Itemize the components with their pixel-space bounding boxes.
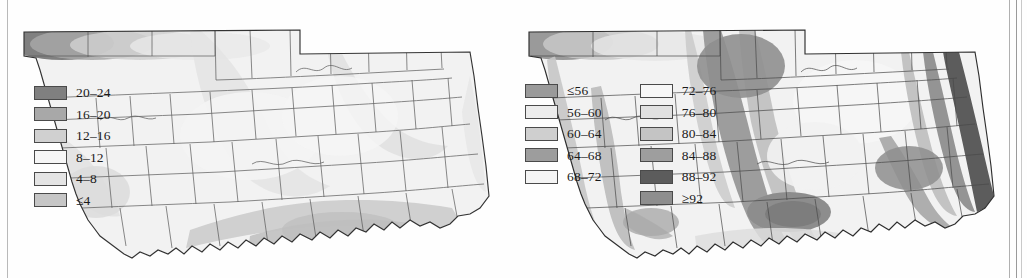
legend-label: ≥92 [682, 192, 704, 206]
legend-item: 76–80 [640, 102, 717, 124]
legend-swatch [34, 129, 67, 143]
legend-label: ≤4 [76, 194, 91, 208]
legend-swatch [34, 150, 67, 164]
legend-item: ≤56 [525, 80, 602, 102]
legend-label: 20–24 [76, 86, 111, 100]
legend-swatch [525, 170, 558, 184]
panel-left: 20–24 16–20 12–16 8–12 4–8 [0, 0, 510, 278]
legend-swatch [640, 170, 673, 184]
panel-right: ≤56 56–60 60–64 64–68 68–72 [505, 0, 1027, 278]
legend-swatch [640, 148, 673, 162]
legend-swatch [640, 127, 673, 141]
legend-left-column-1: 20–24 16–20 12–16 8–12 4–8 [34, 82, 111, 211]
legend-label: 88–92 [682, 170, 717, 184]
legend-item: 64–68 [525, 145, 602, 167]
legend-label: 68–72 [567, 170, 602, 184]
legend-item: ≤4 [34, 190, 111, 212]
legend-swatch [640, 191, 673, 205]
legend-label: 8–12 [76, 151, 104, 165]
figure-page: 20–24 16–20 12–16 8–12 4–8 [0, 0, 1027, 278]
legend-item: 20–24 [34, 82, 111, 104]
legend-label: 72–76 [682, 84, 717, 98]
legend-label: 56–60 [567, 106, 602, 120]
legend-item: 60–64 [525, 123, 602, 145]
legend-label: 12–16 [76, 129, 111, 143]
legend-swatch [525, 148, 558, 162]
legend-swatch [640, 105, 673, 119]
legend-label: 76–80 [682, 106, 717, 120]
legend-item: 12–16 [34, 125, 111, 147]
legend-item: 8–12 [34, 147, 111, 169]
legend-right-column-1: ≤56 56–60 60–64 64–68 68–72 [525, 80, 602, 209]
legend-label: ≤56 [567, 84, 589, 98]
legend-item: 56–60 [525, 102, 602, 124]
legend-swatch [34, 107, 67, 121]
legend-item: 80–84 [640, 123, 717, 145]
legend-item: 84–88 [640, 145, 717, 167]
legend-label: 84–88 [682, 149, 717, 163]
legend-right-column-2: 72–76 76–80 80–84 84–88 88–92 [640, 80, 717, 209]
legend-item: 4–8 [34, 168, 111, 190]
legend-item: 72–76 [640, 80, 717, 102]
legend-swatch [34, 172, 67, 186]
legend-label: 64–68 [567, 149, 602, 163]
legend-item: 88–92 [640, 166, 717, 188]
legend-swatch [525, 127, 558, 141]
legend-item: ≥92 [640, 188, 717, 210]
legend-label: 16–20 [76, 108, 111, 122]
legend-item: 16–20 [34, 104, 111, 126]
legend-swatch [525, 105, 558, 119]
legend-label: 4–8 [76, 172, 97, 186]
legend-item: 68–72 [525, 166, 602, 188]
legend-swatch [34, 86, 67, 100]
legend-left: 20–24 16–20 12–16 8–12 4–8 [34, 82, 111, 211]
legend-label: 80–84 [682, 127, 717, 141]
legend-right: ≤56 56–60 60–64 64–68 68–72 [525, 80, 717, 209]
legend-label: 60–64 [567, 127, 602, 141]
legend-swatch [640, 84, 673, 98]
legend-swatch [525, 84, 558, 98]
legend-swatch [34, 193, 67, 207]
